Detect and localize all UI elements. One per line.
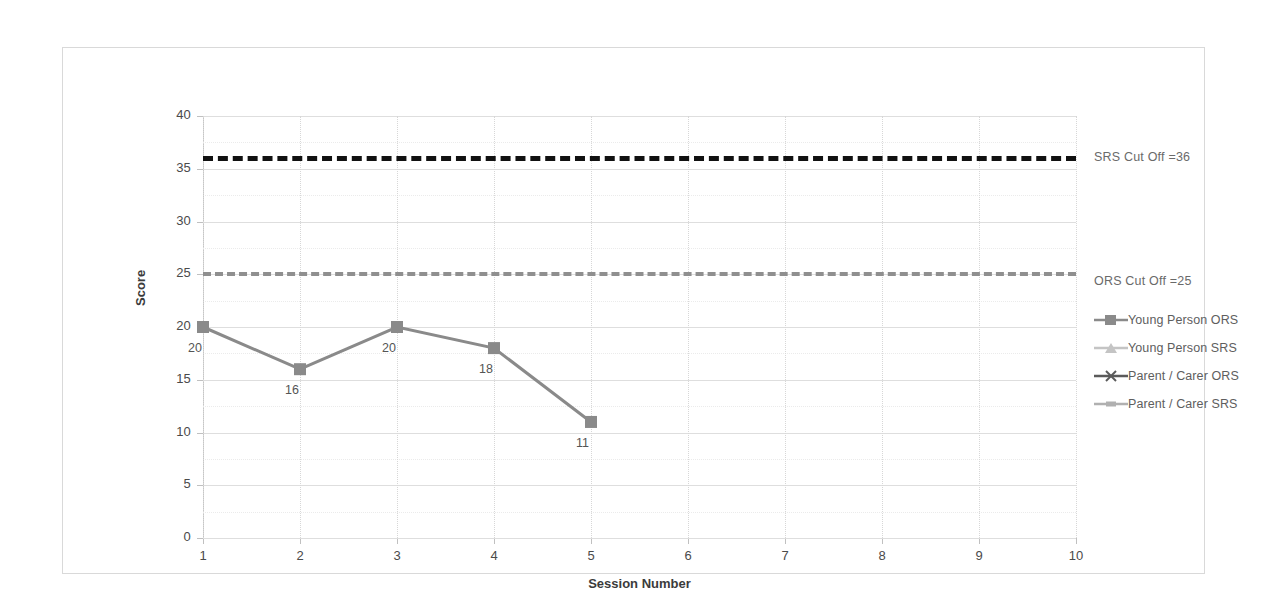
data-point-label: 16 (285, 383, 299, 397)
x-axis-title: Session Number (203, 576, 1076, 591)
legend-item-2[interactable]: Parent / Carer ORS (1094, 362, 1271, 390)
data-point-label: 18 (479, 362, 493, 376)
vertical-gridline (1076, 116, 1077, 538)
data-point-label: 11 (576, 436, 589, 450)
series-line-0 (203, 327, 591, 422)
legend-item-3[interactable]: Parent / Carer SRS (1094, 390, 1271, 418)
legend-item-0[interactable]: Young Person ORS (1094, 306, 1271, 334)
data-point-marker (391, 321, 403, 333)
data-point-label: 20 (382, 341, 396, 355)
data-point-marker (488, 342, 500, 354)
y-tick-label: 5 (151, 476, 191, 491)
x-tick-label: 6 (668, 548, 708, 563)
y-tick-label: 30 (151, 213, 191, 228)
plot-area: 2016201811 (203, 116, 1076, 538)
x-tick-label: 10 (1056, 548, 1096, 563)
y-tick-label: 40 (151, 107, 191, 122)
ors-cutoff-label: ORS Cut Off =25 (1094, 274, 1192, 288)
y-tick-label: 0 (151, 529, 191, 544)
series-layer (203, 116, 1076, 538)
legend-marker-dash-icon (1094, 397, 1128, 411)
figure-frame: Score 0510152025303540 12345678910 20162… (62, 47, 1205, 574)
legend-marker-triangle-icon (1094, 341, 1128, 355)
legend-marker-square-icon (1094, 313, 1128, 327)
data-point-marker (585, 416, 597, 428)
x-tick-label: 5 (571, 548, 611, 563)
data-point-label: 20 (188, 341, 202, 355)
srs-cutoff-label: SRS Cut Off =36 (1094, 150, 1190, 164)
x-tick-label: 9 (959, 548, 999, 563)
x-tick-label: 8 (862, 548, 902, 563)
legend-label: Young Person SRS (1128, 341, 1237, 355)
y-tick-label: 35 (151, 160, 191, 175)
data-point-marker (294, 363, 306, 375)
y-tick-label: 15 (151, 371, 191, 386)
y-tick-label: 10 (151, 424, 191, 439)
x-tick-label: 4 (474, 548, 514, 563)
y-axis-title: Score (133, 270, 148, 306)
legend-label: Parent / Carer SRS (1128, 397, 1237, 411)
x-tick-label: 7 (765, 548, 805, 563)
legend-marker-cross-icon (1094, 369, 1128, 383)
x-tick-label: 3 (377, 548, 417, 563)
legend-item-1[interactable]: Young Person SRS (1094, 334, 1271, 362)
x-tick-label: 1 (183, 548, 223, 563)
y-tick-label: 20 (151, 318, 191, 333)
legend-label: Parent / Carer ORS (1128, 369, 1239, 383)
legend-label: Young Person ORS (1128, 313, 1238, 327)
data-point-marker (197, 321, 209, 333)
y-tick-label: 25 (151, 265, 191, 280)
x-tick-mark (1076, 538, 1077, 544)
horizontal-gridline (203, 538, 1076, 539)
chart-legend: Young Person ORSYoung Person SRSParent /… (1094, 306, 1271, 418)
x-tick-label: 2 (280, 548, 320, 563)
